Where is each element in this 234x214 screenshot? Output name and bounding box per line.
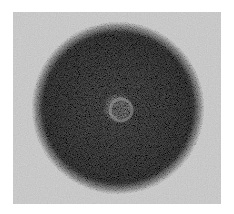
disc-edge-fade	[32, 22, 204, 194]
micrograph-image	[13, 12, 221, 204]
micrograph-panel	[13, 12, 221, 204]
